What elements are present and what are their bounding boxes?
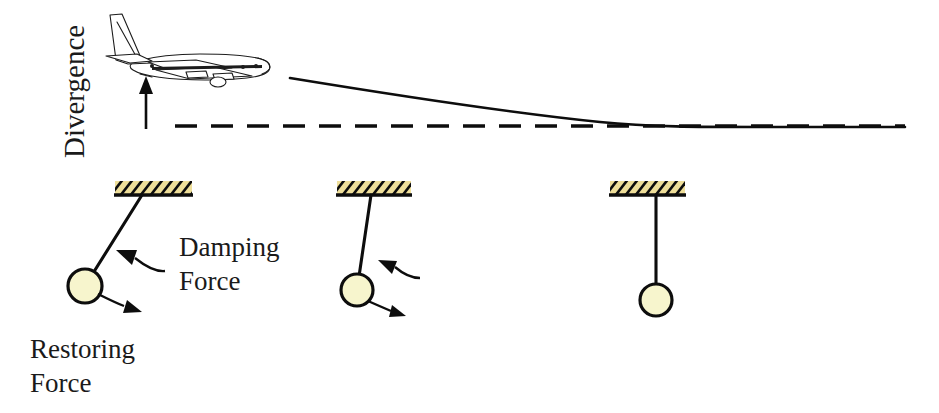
damping-arrow-shaft-2 (395, 267, 420, 278)
restoring-arrow-head-1 (123, 300, 142, 313)
damping-force-label: Damping Force (179, 232, 280, 296)
damping-arrow-shaft-1 (135, 258, 165, 271)
diagram-canvas: Divergence (0, 0, 939, 413)
plane-door-fwd (150, 64, 154, 68)
damping-force-arrow-2 (378, 260, 420, 278)
restoring-force-label-line2: Force (30, 368, 91, 398)
damping-arrow-head-2 (378, 260, 397, 274)
restoring-arrow-head-2 (389, 305, 406, 317)
damping-force-label-line1: Damping (179, 232, 280, 262)
restoring-force-label: Restoring Force (30, 334, 135, 398)
restoring-force-arrow-1 (98, 294, 142, 313)
divergence-axis-label: Divergence (58, 25, 90, 158)
plane-engine-inboard (186, 71, 208, 78)
divergence-axis-label-text: Divergence (58, 25, 90, 158)
pendulum-at-rest (605, 178, 699, 316)
pendulum-bob-3 (640, 284, 672, 316)
pendulum-bob-1 (68, 269, 102, 303)
airliner-side-view-icon (106, 14, 270, 87)
restoring-arrow-shaft-2 (368, 301, 391, 311)
damping-arrow-head-1 (116, 250, 137, 265)
plane-cockpit-window (254, 64, 258, 68)
pendulum-medium-amplitude (332, 178, 426, 317)
plane-horizontal-stabilizer (106, 54, 152, 63)
up-arrow-head (139, 76, 153, 94)
plane-door-aft (241, 65, 245, 69)
plane-gear-pod (210, 77, 226, 87)
damping-force-label-line2: Force (179, 266, 240, 296)
restoring-force-label-line1: Restoring (30, 334, 135, 364)
divergence-decay-curve (290, 78, 905, 127)
restoring-force-arrow-2 (368, 301, 406, 317)
damping-force-arrow-1 (116, 250, 165, 271)
divergence-damping-figure: Divergence (0, 0, 939, 413)
up-arrow-icon (139, 76, 153, 129)
restoring-arrow-shaft-1 (98, 294, 124, 306)
